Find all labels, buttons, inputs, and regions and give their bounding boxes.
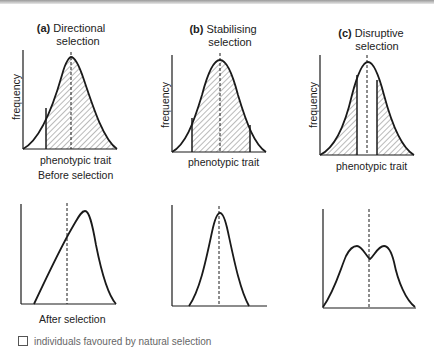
panel-a-title-line1: Directional <box>53 22 105 34</box>
panel-c-ylabel: frequency <box>307 82 319 128</box>
panel-c-before <box>320 55 414 155</box>
panel-b-letter: (b) <box>189 23 203 35</box>
legend-text: individuals favoured by natural selectio… <box>34 336 211 347</box>
panel-b-title: (b) Stabilising selection <box>178 23 268 49</box>
panel-c-title-line2: selection <box>343 40 398 52</box>
panel-b-before <box>172 53 266 152</box>
before-selection-label: Before selection <box>38 169 113 181</box>
legend: individuals favoured by natural selectio… <box>18 336 211 347</box>
panel-a-ylabel: frequency <box>10 74 22 120</box>
panel-b-after <box>172 205 267 306</box>
panel-c-after <box>323 209 416 308</box>
panel-a-title: (a) Directional selection <box>30 22 112 48</box>
panel-b-title-line2: selection <box>194 36 251 48</box>
panel-c-title: (c) Disruptive selection <box>330 27 412 53</box>
panel-b-xlabel: phenotypic trait <box>188 156 259 168</box>
panel-b-ylabel: frequency <box>159 82 171 128</box>
hatched-box-icon <box>18 336 28 346</box>
panel-a-before <box>23 50 117 149</box>
after-selection-label: After selection <box>39 313 106 325</box>
panel-b-title-line1: Stabilising <box>206 23 256 35</box>
panel-a-letter: (a) <box>37 22 50 34</box>
panel-a-xlabel: phenotypic trait <box>40 154 111 166</box>
panel-c-letter: (c) <box>338 27 351 39</box>
panel-a-after <box>21 203 116 304</box>
panel-c-xlabel: phenotypic trait <box>336 160 407 172</box>
panel-a-title-line2: selection <box>42 35 99 47</box>
panel-c-title-line1: Disruptive <box>355 27 404 39</box>
